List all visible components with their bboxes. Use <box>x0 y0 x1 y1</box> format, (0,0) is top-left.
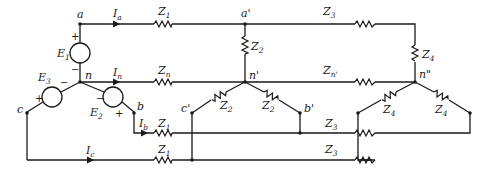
e2-minus: − <box>96 93 104 104</box>
wire-load1-c <box>192 82 245 160</box>
label-node-n: n <box>85 69 92 82</box>
label-z2-a: Z2 <box>250 40 264 55</box>
circuit-diagram: a n c b a' n' c' b' n" E1 + − E3 + − E2 … <box>0 0 489 176</box>
impedance-z1-a <box>154 21 172 27</box>
source-e1 <box>70 43 90 63</box>
label-e1: E1 <box>56 47 70 62</box>
label-z1-c: Z1 <box>157 143 170 158</box>
impedance-z4-b <box>433 89 450 102</box>
label-in: In <box>112 66 122 81</box>
impedance-z3-a <box>355 21 375 27</box>
label-node-a: a <box>77 8 84 21</box>
label-node-c: c <box>17 103 23 116</box>
label-z3-a: Z3 <box>322 5 336 20</box>
wire-phase-c <box>27 113 375 160</box>
label-e3: E3 <box>37 71 51 86</box>
e3-minus: − <box>60 77 68 88</box>
e1-plus: + <box>71 31 79 42</box>
wire-phase-b <box>172 113 470 133</box>
label-z1-a: Z1 <box>157 5 170 20</box>
source-e2 <box>103 87 123 107</box>
label-node-n-double-prime: n" <box>419 68 431 81</box>
e3-plus: + <box>35 93 43 104</box>
label-zn-prime: Zn' <box>322 64 338 79</box>
label-ic: Ic <box>85 144 95 159</box>
impedance-z4-a <box>412 45 418 61</box>
label-ib: Ib <box>138 117 148 132</box>
circuit-svg: a n c b a' n' c' b' n" E1 + − E3 + − E2 … <box>0 0 489 176</box>
impedance-z2-a <box>242 36 248 54</box>
impedance-z4-c <box>380 89 397 102</box>
label-z4-c: Z4 <box>382 103 396 118</box>
label-zn: Zn <box>157 64 171 79</box>
label-node-n-prime: n' <box>249 69 259 82</box>
label-node-b: b <box>137 100 144 113</box>
junction-dots <box>25 22 472 162</box>
e1-minus: − <box>71 64 79 75</box>
label-z3-c: Z3 <box>324 143 338 158</box>
label-ia: Ia <box>112 7 122 22</box>
label-node-a-prime: a' <box>241 7 251 20</box>
impedance-zn-prime <box>355 79 375 85</box>
label-node-b-prime: b' <box>304 102 314 115</box>
label-node-c-prime: c' <box>181 102 190 115</box>
impedance-zn <box>154 79 172 85</box>
label-z1-b: Z1 <box>157 117 170 132</box>
label-z3-b: Z3 <box>324 117 338 132</box>
label-z2-c: Z2 <box>219 99 233 114</box>
label-e2: E2 <box>89 106 103 121</box>
e2-plus: + <box>115 108 123 119</box>
label-z4-a: Z4 <box>421 48 435 63</box>
label-z4-b: Z4 <box>434 103 448 118</box>
label-z2-b: Z2 <box>261 99 275 114</box>
source-e3 <box>42 87 62 107</box>
